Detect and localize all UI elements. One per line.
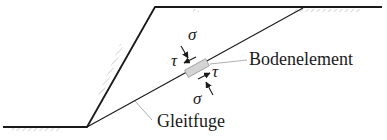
- sigma-bottom-label: σ: [193, 90, 201, 107]
- slope-diagram: σ τ τ σ Bodenelement Gleitfuge: [0, 0, 387, 140]
- tau-bottom-label: τ: [212, 63, 218, 80]
- sigma-top-label: σ: [188, 26, 196, 43]
- sigma-bottom-arrow: [206, 82, 213, 95]
- sigma-top-arrow: [181, 46, 188, 58]
- soil-element: [185, 59, 210, 78]
- slip-surface-label: Gleitfuge: [157, 112, 225, 130]
- soil-element-label: Bodenelement: [249, 50, 353, 68]
- tau-top-label: τ: [171, 52, 177, 69]
- tau-bottom-arrow: [198, 73, 210, 79]
- tau-top-arrow: [184, 57, 196, 63]
- slip-surface-leader-line: [135, 101, 152, 120]
